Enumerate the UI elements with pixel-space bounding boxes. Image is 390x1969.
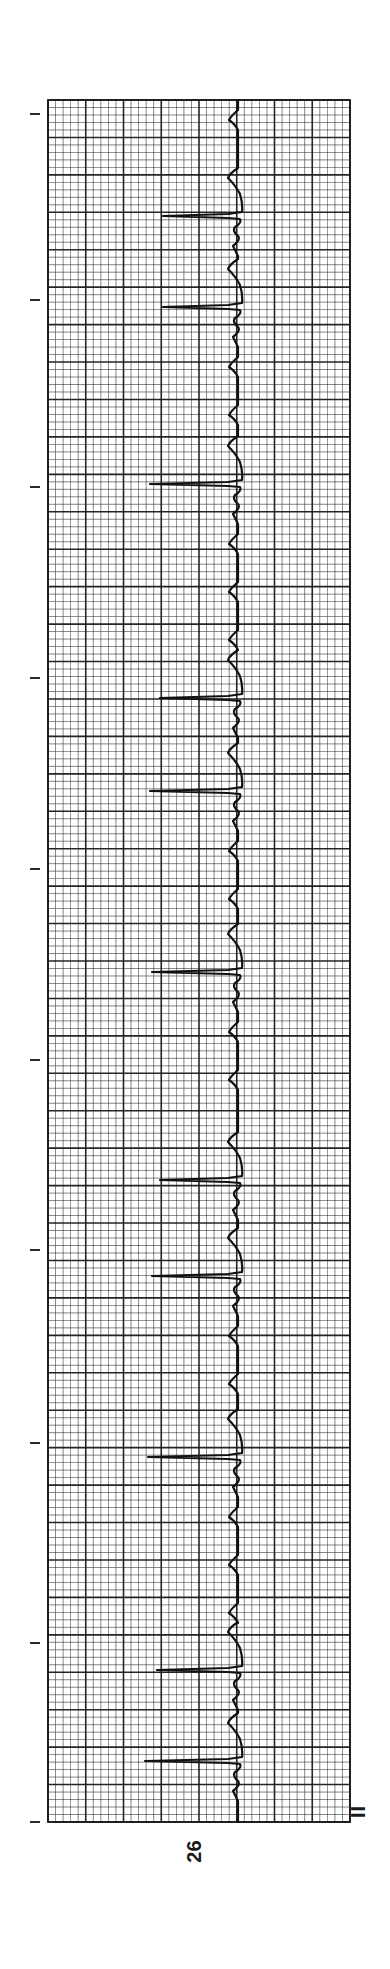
time-marker-ticks [30,114,40,1822]
ecg-grid-paper [48,100,350,1822]
ecg-strip [0,0,390,1969]
lead-label: II [347,1802,370,1822]
strip-number-label: 26 [183,1836,206,1868]
